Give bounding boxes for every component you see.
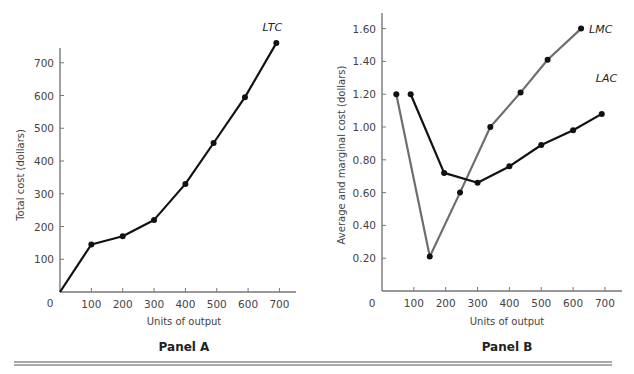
data-point-lac: [408, 91, 414, 97]
data-point-lac: [441, 170, 447, 176]
data-point-lmc: [393, 91, 399, 97]
data-point-lac: [599, 111, 605, 117]
panel-b-x-tick-label: 400: [499, 297, 519, 309]
panel-a-y-tick-label: 400: [34, 155, 54, 167]
panel-b-x-tick-label: 200: [436, 297, 456, 309]
data-point-lmc: [457, 190, 463, 196]
panel-b-y-tick-label: 1.20: [353, 88, 376, 100]
panel-b-x-tick-label: 500: [531, 297, 551, 309]
panel-a-x-tick-label: 500: [207, 298, 227, 310]
series-label-ltc: LTC: [262, 21, 282, 34]
panel-a-y-tick-label: 700: [34, 57, 54, 69]
panel-b-origin-label: 0: [369, 297, 376, 309]
data-point-lmc: [578, 26, 584, 32]
series-line-ltc: [60, 43, 276, 292]
data-point-ltc: [120, 233, 126, 239]
panel-b-x-tick-label: 100: [404, 297, 424, 309]
panel-a-y-tick-label: 600: [34, 90, 54, 102]
panel-a-y-tick-label: 100: [34, 253, 54, 265]
data-point-lmc: [487, 124, 493, 130]
panel-b-y-tick-label: 0.40: [353, 219, 376, 231]
cost-curves-figure: Total cost (dollars) Units of output Pan…: [0, 0, 634, 374]
panel-a-x-tick-label: 200: [113, 298, 133, 310]
panel-b-y-tick-label: 1.60: [353, 23, 376, 35]
panel-a-title: Panel A: [159, 340, 211, 354]
panel-b-x-tick-label: 300: [468, 297, 488, 309]
data-point-lac: [506, 163, 512, 169]
panel-a-x-tick-label: 100: [81, 298, 101, 310]
panel-b-y-tick-label: 0.80: [353, 154, 376, 166]
data-point-ltc: [182, 181, 188, 187]
panel-b-y-tick-label: 1.00: [353, 121, 376, 133]
data-point-lmc: [427, 254, 433, 260]
data-point-ltc: [211, 140, 217, 146]
panel-a-x-axis-title: Units of output: [147, 316, 222, 327]
panel-b-y-tick-label: 0.60: [353, 187, 376, 199]
panel-a-x-tick-label: 400: [175, 298, 195, 310]
data-point-ltc: [242, 94, 248, 100]
panel-a-y-tick-label: 200: [34, 221, 54, 233]
panel-a-y-axis-title: Total cost (dollars): [15, 129, 26, 222]
data-point-lac: [475, 180, 481, 186]
panel-b-x-tick-label: 600: [563, 297, 583, 309]
data-point-lmc: [545, 57, 551, 63]
data-point-lac: [570, 127, 576, 133]
series-label-lmc: LMC: [589, 23, 613, 36]
series-line-lmc: [396, 29, 581, 257]
data-point-lmc: [518, 90, 524, 96]
data-point-ltc: [273, 40, 279, 46]
series-label-lac: LAC: [596, 72, 618, 85]
data-point-ltc: [88, 242, 94, 248]
panel-a-origin-label: 0: [47, 297, 54, 309]
panel-a-x-tick-label: 300: [144, 298, 164, 310]
panel-a-x-tick-label: 600: [238, 298, 258, 310]
panel-b: Average and marginal cost (dollars) Unit…: [336, 13, 622, 354]
panel-b-title: Panel B: [482, 340, 533, 354]
panel-b-y-axis-title: Average and marginal cost (dollars): [336, 66, 347, 245]
panel-a: Total cost (dollars) Units of output Pan…: [15, 21, 296, 354]
panel-b-x-axis-title: Units of output: [470, 316, 545, 327]
panel-a-y-tick-label: 300: [34, 188, 54, 200]
panel-b-x-tick-label: 700: [595, 297, 615, 309]
panel-b-y-tick-label: 0.20: [353, 252, 376, 264]
data-point-lac: [538, 142, 544, 148]
panel-a-y-tick-label: 500: [34, 122, 54, 134]
data-point-ltc: [151, 217, 157, 223]
panel-a-x-tick-label: 700: [269, 298, 289, 310]
panel-b-y-tick-label: 1.40: [353, 55, 376, 67]
